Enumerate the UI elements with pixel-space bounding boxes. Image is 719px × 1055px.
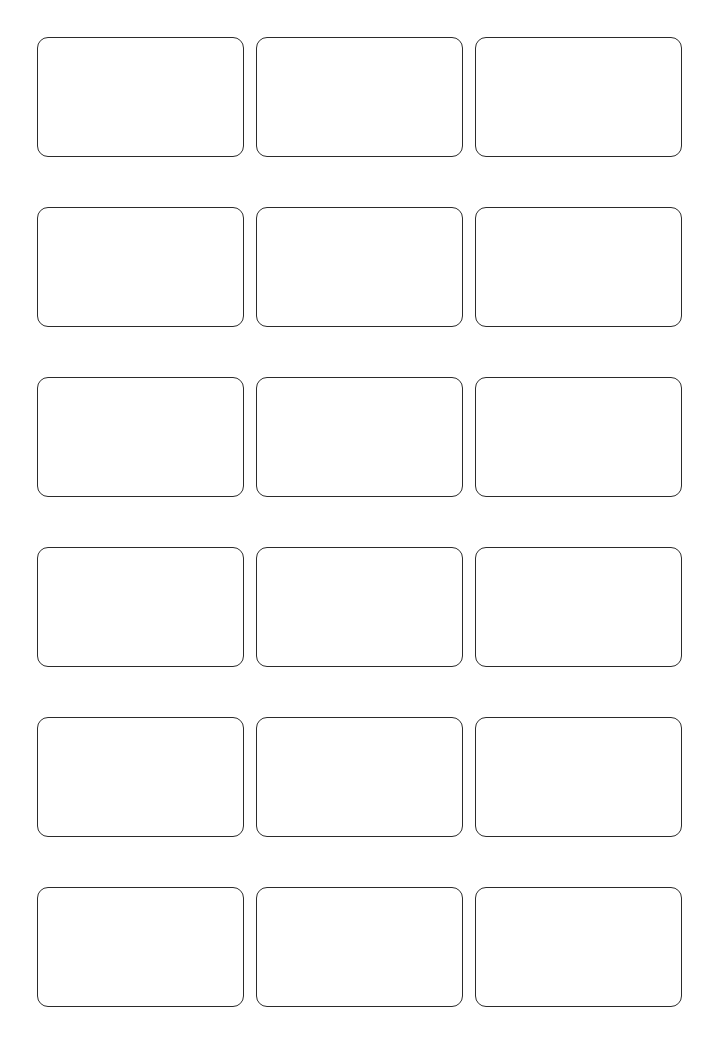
card-r3-c2[interactable] xyxy=(256,377,463,497)
card-r4-c2[interactable] xyxy=(256,547,463,667)
card-grid xyxy=(37,37,682,1007)
card-r3-c3[interactable] xyxy=(475,377,682,497)
card-content xyxy=(38,718,243,836)
card-content xyxy=(476,888,681,1006)
card-r4-c3[interactable] xyxy=(475,547,682,667)
card-r5-c2[interactable] xyxy=(256,717,463,837)
card-r2-c1[interactable] xyxy=(37,207,244,327)
card-r4-c1[interactable] xyxy=(37,547,244,667)
card-content xyxy=(257,718,462,836)
card-r2-c2[interactable] xyxy=(256,207,463,327)
card-content xyxy=(257,378,462,496)
card-content xyxy=(257,208,462,326)
card-content xyxy=(38,38,243,156)
card-content xyxy=(476,718,681,836)
card-content xyxy=(476,378,681,496)
card-r6-c2[interactable] xyxy=(256,887,463,1007)
card-r1-c1[interactable] xyxy=(37,37,244,157)
card-content xyxy=(257,888,462,1006)
card-r6-c1[interactable] xyxy=(37,887,244,1007)
card-content xyxy=(257,38,462,156)
card-content xyxy=(257,548,462,666)
card-r2-c3[interactable] xyxy=(475,207,682,327)
card-content xyxy=(476,38,681,156)
card-content xyxy=(38,378,243,496)
card-r6-c3[interactable] xyxy=(475,887,682,1007)
card-content xyxy=(38,888,243,1006)
card-r3-c1[interactable] xyxy=(37,377,244,497)
card-r1-c2[interactable] xyxy=(256,37,463,157)
card-r1-c3[interactable] xyxy=(475,37,682,157)
card-r5-c1[interactable] xyxy=(37,717,244,837)
card-template-page xyxy=(0,0,719,1055)
card-content xyxy=(38,548,243,666)
card-r5-c3[interactable] xyxy=(475,717,682,837)
card-content xyxy=(476,548,681,666)
card-content xyxy=(38,208,243,326)
card-content xyxy=(476,208,681,326)
